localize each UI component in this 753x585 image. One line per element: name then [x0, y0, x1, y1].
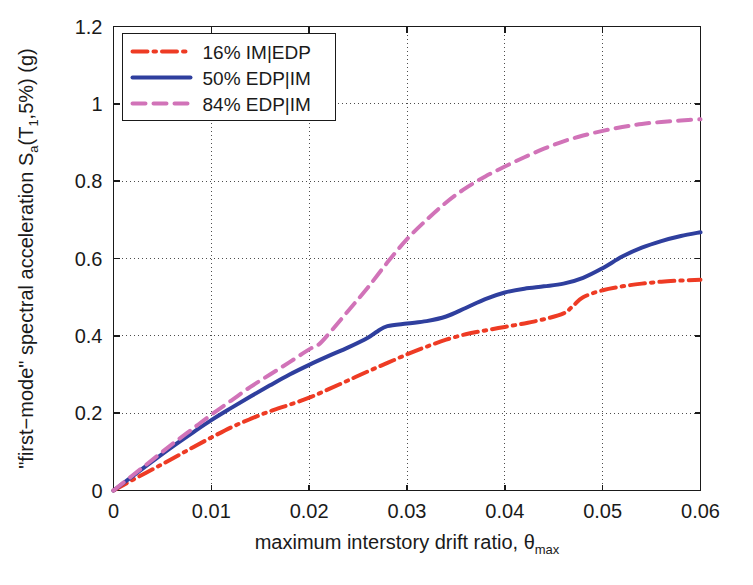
y-tick-label: 0 — [91, 480, 102, 502]
y-tick-label: 0.2 — [75, 402, 103, 424]
x-tick-label: 0 — [108, 500, 119, 522]
x-tick-label: 0.05 — [583, 500, 622, 522]
y-tick-label: 1 — [91, 93, 102, 115]
x-tick-label: 0.06 — [681, 500, 720, 522]
y-tick-label: 0.8 — [75, 170, 103, 192]
y-tick-label: 0.4 — [75, 325, 103, 347]
y-tick-label: 1.2 — [75, 16, 103, 38]
x-tick-label: 0.02 — [290, 500, 329, 522]
chart-canvas: 00.010.020.030.040.050.06 00.20.40.60.81… — [0, 0, 753, 585]
legend-label[interactable]: 16% IM|EDP — [203, 42, 311, 63]
chart-figure: 00.010.020.030.040.050.06 00.20.40.60.81… — [0, 0, 753, 585]
y-tick-label: 0.6 — [75, 248, 103, 270]
x-tick-label: 0.04 — [485, 500, 524, 522]
x-tick-label: 0.03 — [388, 500, 427, 522]
legend-label[interactable]: 84% EDP|IM — [203, 94, 311, 115]
chart-legend[interactable]: 16% IM|EDP50% EDP|IM84% EDP|IM — [123, 34, 336, 121]
x-tick-label: 0.01 — [192, 500, 231, 522]
legend-label[interactable]: 50% EDP|IM — [203, 68, 311, 89]
